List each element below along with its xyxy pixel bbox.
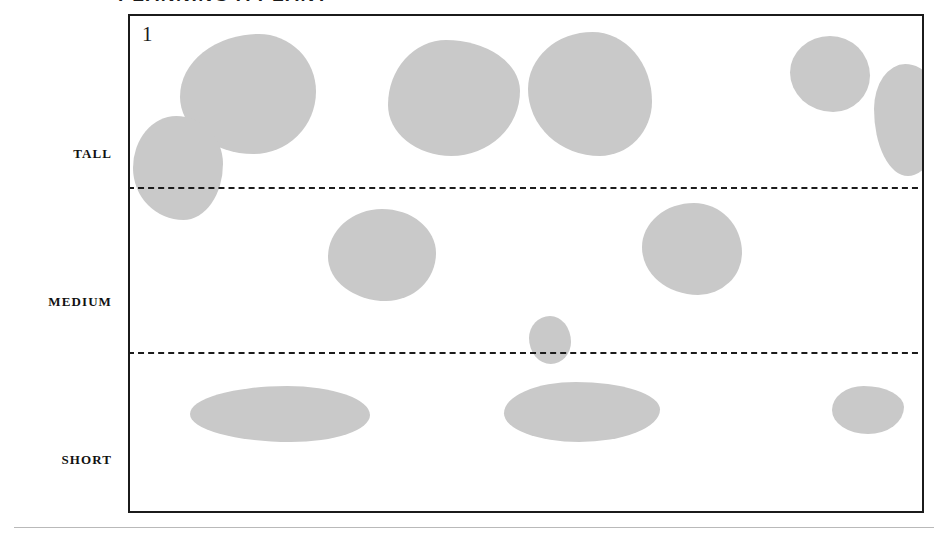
band-label-medium: MEDIUM [48,294,112,310]
canopy-blob [528,32,652,156]
canopy-blob [388,40,520,156]
diagram-frame: 1 [128,14,924,513]
canopy-blob [874,64,924,176]
canopy-blob [328,209,436,301]
running-title: PLANNING A PLANT [118,0,538,6]
page-rule [14,527,934,528]
band-label-short: SHORT [61,452,112,468]
band-divider-medium-short [128,352,924,354]
canopy-blob [133,116,223,220]
canopy-blob [642,203,742,295]
canopy-blob [190,386,370,442]
canopy-blob [504,382,660,442]
canopy-blob [832,386,904,434]
figure-page: PLANNING A PLANT TALL MEDIUM SHORT 1 [0,0,948,534]
canopy-blob [529,316,571,364]
canopy-blob [790,36,870,112]
band-divider-tall-medium [128,187,924,189]
running-title-text: PLANNING A PLANT [118,0,538,6]
panel-number: 1 [142,24,153,45]
band-label-tall: TALL [73,146,112,162]
